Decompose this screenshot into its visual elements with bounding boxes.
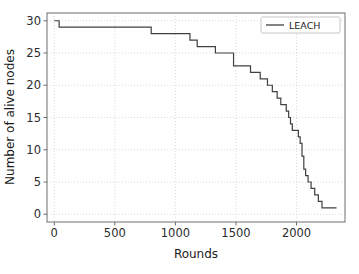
legend: LEACH — [261, 17, 340, 33]
x-axis-title: Rounds — [174, 247, 218, 261]
x-tick-label: 0 — [51, 226, 58, 240]
x-tick-label: 2000 — [282, 226, 311, 240]
y-tick-label: 0 — [34, 207, 41, 221]
x-tick-label: 1000 — [161, 226, 190, 240]
x-tick-label: 500 — [104, 226, 126, 240]
chart-canvas: 0500100015002000 051015202530 Rounds Num… — [0, 0, 359, 274]
y-tick-label: 20 — [26, 78, 41, 92]
legend-label-leach: LEACH — [289, 20, 320, 31]
y-tick-label: 30 — [26, 14, 41, 28]
y-tick-label: 10 — [26, 143, 41, 157]
x-tick-label: 1500 — [221, 226, 250, 240]
y-tick-label: 25 — [26, 46, 41, 60]
y-tick-label: 15 — [26, 111, 41, 125]
chart-figure: 0500100015002000 051015202530 Rounds Num… — [0, 0, 359, 274]
y-tick-label: 5 — [34, 175, 41, 189]
y-axis-title: Number of alive nodes — [3, 49, 17, 185]
